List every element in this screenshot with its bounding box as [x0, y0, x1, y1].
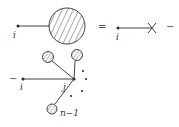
rhs-cross-diagram: i	[116, 23, 156, 42]
label-i: i	[13, 30, 16, 40]
small-blob-1	[43, 52, 54, 63]
bottom-vertex-diagram: i j n−1	[20, 50, 87, 119]
label-n-1: n−1	[60, 108, 79, 118]
label-i: i	[20, 82, 23, 92]
small-blob-n-1	[47, 104, 57, 114]
leg-2	[74, 61, 75, 79]
hatched-blob	[49, 8, 85, 44]
leading-minus-sign: −	[9, 73, 17, 84]
equals-sign: =	[98, 21, 106, 32]
ellipsis-dots	[70, 70, 87, 97]
label-i: i	[116, 32, 119, 42]
feynman-diagram: i = i − − i j n−1	[0, 0, 179, 127]
lhs-blob-diagram: i	[13, 8, 85, 44]
small-blob-2	[72, 50, 83, 61]
leg-1	[52, 61, 74, 79]
label-j: j	[61, 82, 66, 92]
minus-sign: −	[166, 21, 174, 32]
